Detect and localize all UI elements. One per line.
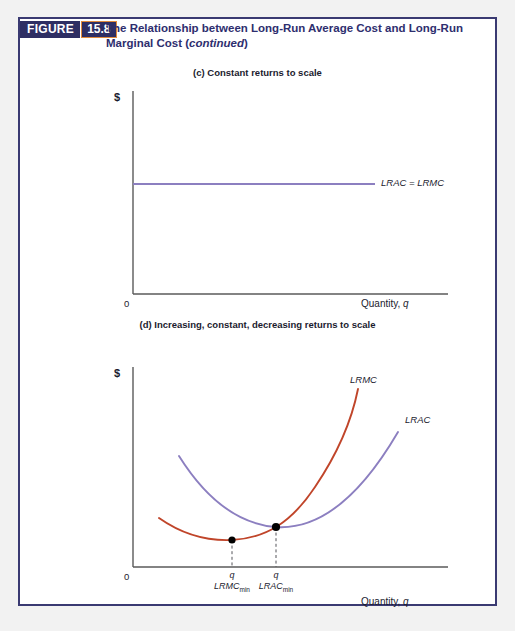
panel-d-plot xyxy=(20,319,499,604)
figure-title-line2-tail: ) xyxy=(244,37,248,49)
panel-d-lrac-curve xyxy=(179,432,398,527)
panel-c-x-axis-label: Quantity, q xyxy=(361,298,409,309)
figure-title-line2-main: Marginal Cost ( xyxy=(106,37,189,49)
panel-d-x-axis-label-text: Quantity, xyxy=(361,596,403,607)
figure-header: FIGURE 15.8 The Relationship between Lon… xyxy=(20,21,495,67)
figure-card: FIGURE 15.8 The Relationship between Lon… xyxy=(18,17,497,606)
panel-d-xtick-lrac-min-sub: min xyxy=(283,586,293,593)
panel-d-xtick-lrac-min-name: LRAC xyxy=(259,581,283,591)
panel-d-point-lrac-min xyxy=(272,523,280,531)
panel-d-origin-label: 0 xyxy=(124,571,129,582)
panel-d-xtick-lrac-min-var: q xyxy=(273,570,278,580)
panel-c-origin-label: 0 xyxy=(124,298,129,309)
panel-d-lrmc-curve xyxy=(159,389,358,540)
panel-c-curve-label: LRAC = LRMC xyxy=(381,177,444,188)
figure-title-line1: The Relationship between Long-Run Averag… xyxy=(106,22,463,34)
figure-title: The Relationship between Long-Run Averag… xyxy=(106,21,491,50)
panel-c-constant-returns: (c) Constant returns to scale $ LRAC = L… xyxy=(20,67,495,319)
panel-c-plot xyxy=(20,67,499,319)
figure-title-continued: continued xyxy=(189,37,244,49)
panel-d-x-axis-label-var: q xyxy=(403,596,409,607)
panel-d-lrac-label: LRAC xyxy=(405,414,430,425)
panel-d-xtick-lrmc-min-var: q xyxy=(229,570,234,580)
panel-d-point-lrmc-min xyxy=(228,536,235,543)
panel-c-x-axis-label-text: Quantity, xyxy=(361,298,403,309)
panel-d-lrmc-label: LRMC xyxy=(350,374,377,385)
panel-d-increasing-constant-decreasing: (d) Increasing, constant, decreasing ret… xyxy=(20,319,495,604)
panel-d-xtick-lrac-min: q LRACmin xyxy=(236,570,316,595)
figure-badge-word: FIGURE xyxy=(20,21,80,38)
figure-badge: FIGURE 15.8 xyxy=(20,21,117,38)
panel-d-x-axis-label: Quantity, q xyxy=(361,596,409,607)
panel-c-x-axis-label-var: q xyxy=(403,298,409,309)
